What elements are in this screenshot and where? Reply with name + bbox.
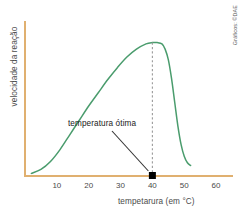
- x-tick-label-30: 30: [110, 181, 132, 190]
- x-tick-label-20: 20: [78, 181, 100, 190]
- x-tick-label-10: 10: [46, 181, 68, 190]
- optimum-temperature-marker: [149, 172, 156, 179]
- reaction-rate-curve: [31, 42, 190, 173]
- x-tick-label-60: 60: [205, 181, 227, 190]
- x-tick-label-50: 50: [173, 181, 195, 190]
- x-tick-label-40: 40: [141, 181, 163, 190]
- x-axis-title: tempetarura (em °C): [118, 197, 195, 206]
- annotation-leader-line: [112, 131, 148, 171]
- chart-figure: velocidade da reação 102030405060 tempet…: [0, 0, 245, 215]
- optimum-temperature-label: temperatura ótima: [68, 119, 136, 128]
- figure-credit: Gráficos: ©DAE: [232, 0, 238, 56]
- y-axis-title: velocidade da reação: [10, 7, 19, 127]
